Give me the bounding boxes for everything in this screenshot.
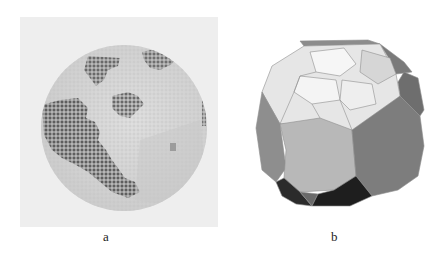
panel-b-polyhedron (256, 40, 424, 206)
facet-white-3 (340, 80, 376, 110)
figure-canvas (0, 0, 439, 257)
panel-label-b: b (331, 229, 338, 245)
dark-cells-right-edge (202, 100, 206, 126)
facet-lower-middle (280, 118, 356, 192)
panel-label-a: a (103, 229, 109, 245)
panel-a-sphere (41, 45, 207, 211)
